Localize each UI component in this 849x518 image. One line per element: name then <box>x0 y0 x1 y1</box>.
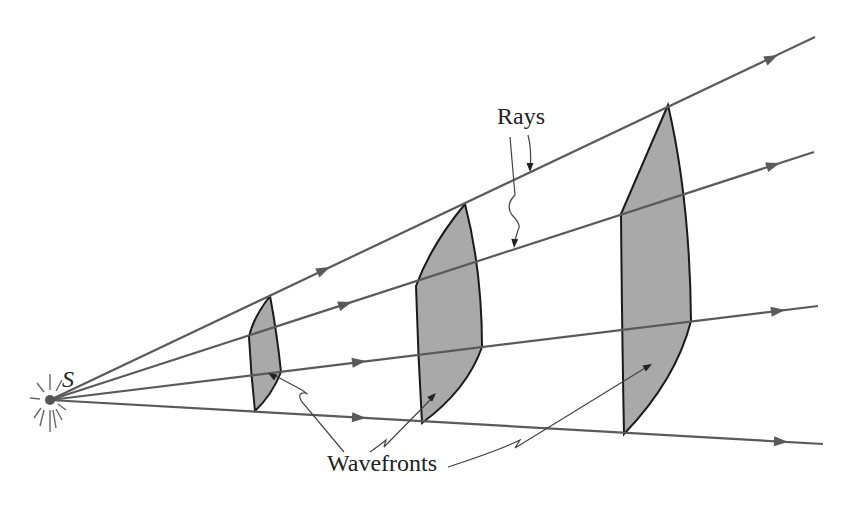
arrow-icon <box>763 50 780 65</box>
rays-label: Rays <box>497 103 545 130</box>
wavefront-medium <box>416 204 482 423</box>
point-source-icon <box>30 374 66 432</box>
wavefronts-label: Wavefronts <box>327 450 437 477</box>
ray-wavefront-diagram <box>0 0 849 518</box>
wavefront-small <box>249 296 281 411</box>
arrow-icon <box>337 297 353 311</box>
arrow-icon <box>774 436 789 447</box>
wavefront-large <box>621 105 691 434</box>
rays-leaders <box>509 135 533 248</box>
diagram-canvas: S Rays Wavefronts <box>0 0 849 518</box>
arrow-icon <box>765 158 781 172</box>
arrow-icon <box>315 262 332 277</box>
arrow-icon <box>352 412 367 423</box>
ray-arrowheads <box>315 50 788 447</box>
source-label: S <box>62 366 74 393</box>
